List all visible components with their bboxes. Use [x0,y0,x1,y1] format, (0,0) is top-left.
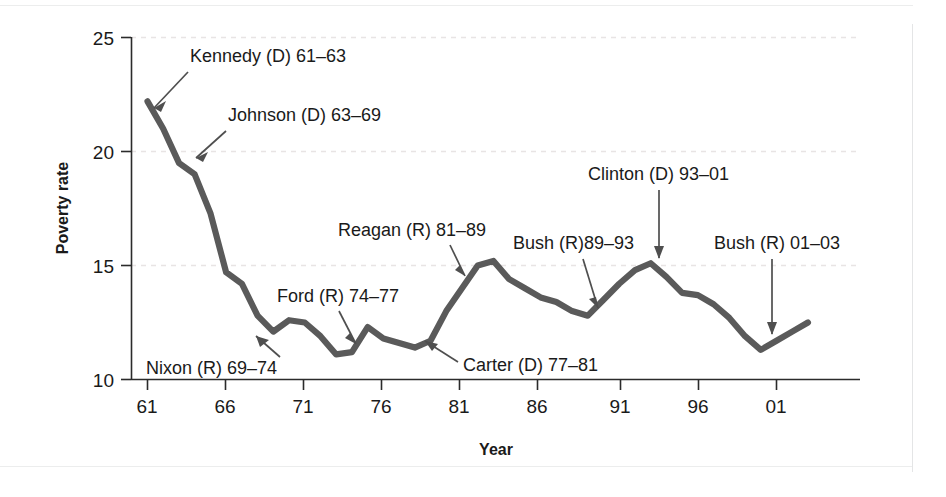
x-axis-ticks [148,379,777,390]
annotation-arrowhead-ford [345,333,356,344]
annotation-arrowhead-bush43 [767,322,777,335]
chart-figure: 25 20 15 10 61 66 71 76 81 86 91 96 01 [0,0,946,497]
y-axis-title: Poverty rate [54,162,71,255]
annotation-arrow-johnson [196,131,226,158]
x-tick-label-81: 81 [448,396,469,417]
x-tick-label-91: 91 [609,396,630,417]
x-tick-label-01: 01 [765,396,786,417]
poverty-rate-line-chart: 25 20 15 10 61 66 71 76 81 86 91 96 01 [0,0,946,497]
annotation-label-nixon: Nixon (R) 69–74 [146,358,277,378]
x-axis-title: Year [479,441,513,458]
annotation-label-bush43: Bush (R) 01–03 [714,233,840,253]
y-axis-tick-labels: 25 20 15 10 [93,28,114,391]
annotation-arrowhead-clinton [654,246,664,259]
annotation-carter: Carter (D) 77–81 [425,341,598,375]
annotation-arrow-kennedy [154,72,188,108]
annotation-label-kennedy: Kennedy (D) 61–63 [190,46,346,66]
axis-lines [131,37,860,380]
annotation-johnson: Johnson (D) 63–69 [196,105,381,162]
x-tick-label-86: 86 [526,396,547,417]
annotation-label-clinton: Clinton (D) 93–01 [588,164,729,184]
gridlines [131,38,860,266]
y-tick-label-15: 15 [93,256,114,277]
annotation-reagan: Reagan (R) 81–89 [338,220,486,276]
annotation-label-ford: Ford (R) 74–77 [277,286,399,306]
annotation-label-reagan: Reagan (R) 81–89 [338,220,486,240]
x-tick-label-96: 96 [687,396,708,417]
x-tick-label-71: 71 [292,396,313,417]
y-tick-label-25: 25 [93,28,114,49]
annotation-nixon: Nixon (R) 69–74 [146,336,280,378]
annotation-label-bush41: Bush (R)89–93 [513,233,634,253]
annotation-label-carter: Carter (D) 77–81 [463,355,598,375]
x-tick-label-66: 66 [214,396,235,417]
annotation-arrowhead-reagan [455,265,465,276]
y-axis-ticks [121,38,131,380]
annotation-arrowhead-carter [425,341,438,351]
x-tick-label-61: 61 [136,396,157,417]
annotation-bush41: Bush (R)89–93 [513,233,634,308]
annotation-kennedy: Kennedy (D) 61–63 [154,46,346,112]
x-axis-tick-labels: 61 66 71 76 81 86 91 96 01 [136,396,786,417]
y-tick-label-10: 10 [93,370,114,391]
y-tick-label-20: 20 [93,142,114,163]
x-tick-label-76: 76 [370,396,391,417]
annotation-label-johnson: Johnson (D) 63–69 [228,105,381,125]
